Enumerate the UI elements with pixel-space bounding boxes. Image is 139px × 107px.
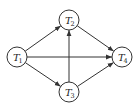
node-subscript: 4 (124, 57, 128, 65)
node-subscript: 2 (71, 20, 75, 28)
node-t3: T3 (59, 82, 79, 102)
node-t4: T4 (112, 47, 132, 67)
node-subscript: 1 (19, 57, 23, 65)
edges-group (25, 26, 114, 87)
node-t1: T1 (7, 47, 27, 67)
edge-t3-to-t4 (77, 63, 113, 87)
edge-t2-to-t4 (77, 26, 114, 52)
node-t2: T2 (59, 10, 79, 30)
directed-graph: T1T2T3T4 (0, 0, 139, 107)
graph-canvas: T1T2T3T4 (0, 0, 139, 107)
edge-t1-to-t3 (25, 63, 60, 87)
node-subscript: 3 (71, 92, 75, 100)
edge-t1-to-t2 (25, 26, 61, 51)
